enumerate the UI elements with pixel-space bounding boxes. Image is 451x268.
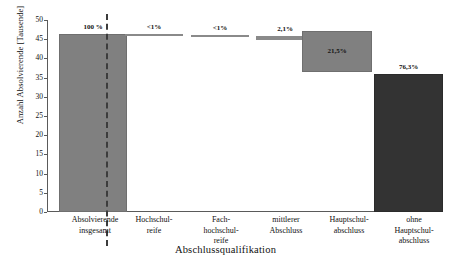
x-category-label-line: reife xyxy=(120,226,188,237)
y-tick-mark-20 xyxy=(44,135,47,136)
bar-value-label-fachhochschulreife: <1% xyxy=(191,25,249,32)
bar-ohne-hauptschulabschluss[interactable] xyxy=(374,74,443,212)
category-separator-line xyxy=(106,14,108,246)
y-tick-mark-25 xyxy=(44,116,47,117)
y-tick-mark-45 xyxy=(44,39,47,40)
x-axis-title: Abschlussqualifikation xyxy=(0,244,451,255)
x-category-label-fachhochschulreife: Fach-hochschul-reife xyxy=(188,215,254,247)
x-category-label-line: Hochschul- xyxy=(120,215,188,226)
y-tick-label-20: 20 xyxy=(23,131,43,139)
y-tick-mark-30 xyxy=(44,97,47,98)
x-category-label-line: ohne xyxy=(379,215,449,226)
x-category-label-hochschulreife: Hochschul-reife xyxy=(120,215,188,236)
x-category-label-line: Hauptschul- xyxy=(310,215,388,226)
y-tick-label-15: 15 xyxy=(23,150,43,158)
y-tick-label-50: 50 xyxy=(23,16,43,24)
plot-area: 50454035302520151050 100 %<1%<1%2,1%21,5… xyxy=(47,20,433,212)
y-tick-label-45: 45 xyxy=(23,35,43,43)
y-tick-mark-50 xyxy=(44,20,47,21)
bar-chart: Anzahl Absolvierende [Tausende] 50454035… xyxy=(0,0,451,268)
y-tick-mark-5 xyxy=(44,193,47,194)
y-tick-label-10: 10 xyxy=(23,170,43,178)
y-tick-label-25: 25 xyxy=(23,112,43,120)
x-category-label-line: hochschul- xyxy=(188,226,254,237)
y-tick-mark-10 xyxy=(44,174,47,175)
x-category-label-line: Fach- xyxy=(188,215,254,226)
x-category-label-line: Hauptschul- xyxy=(379,226,449,237)
bar-hochschulreife[interactable] xyxy=(125,34,183,36)
x-category-label-line: abschluss xyxy=(310,226,388,237)
y-tick-label-5: 5 xyxy=(23,189,43,197)
y-tick-mark-40 xyxy=(44,58,47,59)
y-tick-label-40: 40 xyxy=(23,54,43,62)
y-tick-label-0: 0 xyxy=(23,208,43,216)
bar-value-label-hauptschulabschluss: 21,5% xyxy=(302,48,372,55)
bar-value-label-ohne-hauptschulabschluss: 76,3% xyxy=(374,64,443,71)
x-category-label-ohne-hauptschulabschluss: ohneHauptschul-abschluss xyxy=(379,215,449,247)
bar-value-label-absolvierende-insgesamt: 100 % xyxy=(59,24,127,31)
y-tick-label-35: 35 xyxy=(23,74,43,82)
bar-fachhochschulreife[interactable] xyxy=(191,35,249,37)
y-tick-mark-15 xyxy=(44,154,47,155)
bar-absolvierende-insgesamt[interactable] xyxy=(59,34,127,212)
y-tick-label-30: 30 xyxy=(23,93,43,101)
bar-value-label-hochschulreife: <1% xyxy=(125,24,183,31)
x-category-label-hauptschulabschluss: Hauptschul-abschluss xyxy=(310,215,388,236)
y-tick-mark-0 xyxy=(44,212,47,213)
y-tick-mark-35 xyxy=(44,78,47,79)
y-axis-line xyxy=(47,20,48,212)
